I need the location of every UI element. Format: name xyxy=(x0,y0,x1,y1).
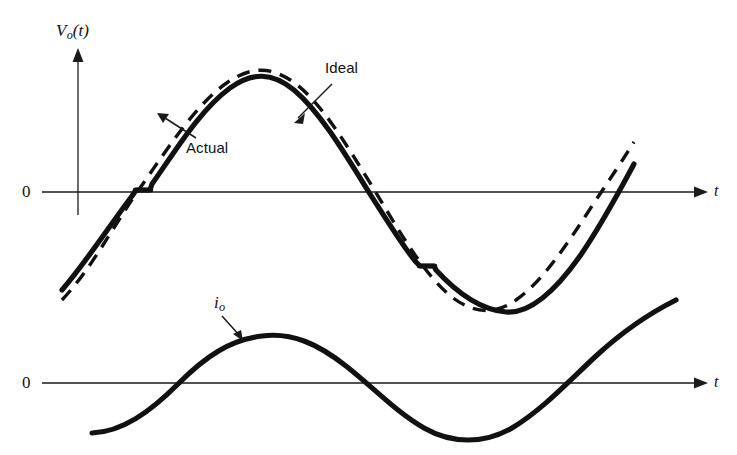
bottom-origin-label: 0 xyxy=(22,374,31,391)
actual-annotation-label: Actual xyxy=(186,140,228,155)
waveform-diagram-canvas xyxy=(0,0,737,455)
top-y-axis-label-arg: (t) xyxy=(73,21,89,40)
bottom-plot-group xyxy=(42,300,708,440)
top-y-axis-label-main: V xyxy=(56,21,66,40)
top-origin-label: 0 xyxy=(22,183,31,200)
io-annotation-label: io xyxy=(214,294,225,314)
io-label-sub: o xyxy=(219,300,225,314)
ideal-leader-arrowhead xyxy=(294,113,305,124)
top-x-axis-label: t xyxy=(714,183,718,199)
top-plot-group xyxy=(42,48,708,312)
figure-root: Vo(t) 0 t Ideal Actual io 0 t xyxy=(0,0,737,455)
actual-waveform-curve xyxy=(62,76,634,312)
output-current-curve xyxy=(92,300,676,440)
actual-leader-arrowhead xyxy=(157,113,169,123)
top-y-axis-label: Vo(t) xyxy=(56,22,89,42)
top-x-axis-arrowhead xyxy=(694,187,708,198)
top-y-axis-arrowhead xyxy=(73,48,84,62)
bottom-x-axis-arrowhead xyxy=(694,378,708,389)
ideal-annotation-label: Ideal xyxy=(325,60,358,75)
bottom-x-axis-label: t xyxy=(714,374,718,390)
